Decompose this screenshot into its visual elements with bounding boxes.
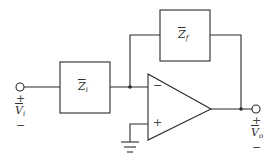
input-voltage-label: Vi xyxy=(15,105,25,118)
output-voltage-label: Vo xyxy=(251,127,263,140)
inverting-junction-dot xyxy=(128,85,132,89)
inverting-input-sign: − xyxy=(153,80,162,91)
input-terminal xyxy=(16,83,24,91)
output-terminal xyxy=(252,105,260,113)
input-minus-sign: − xyxy=(16,120,25,131)
noninverting-input-sign: + xyxy=(153,117,162,128)
output-minus-sign: − xyxy=(252,142,261,153)
noninverting-ground-wire xyxy=(130,124,148,142)
input-plus-sign: + xyxy=(16,93,25,104)
circuit-diagram xyxy=(0,0,272,162)
feedback-impedance-label: Zf xyxy=(178,29,188,42)
feedback-right-wire xyxy=(210,35,241,109)
output-plus-sign: + xyxy=(252,115,261,126)
output-junction-dot xyxy=(239,107,243,111)
input-impedance-label: Zi xyxy=(78,81,88,94)
